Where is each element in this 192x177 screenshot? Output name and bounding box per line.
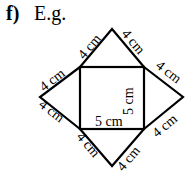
label-left-upper-edge: 4 cm (37, 65, 68, 94)
label-top-left-edge: 4 cm (75, 31, 104, 62)
label-right-lower-edge: 4 cm (149, 111, 180, 140)
label-square-width: 5 cm (95, 114, 123, 129)
pyramid-net-diagram: 4 cm 4 cm 4 cm 4 cm 4 cm 4 cm 4 cm 4 cm … (0, 0, 192, 177)
label-left-lower-edge: 4 cm (36, 97, 67, 126)
label-square-height: 5 cm (121, 87, 136, 115)
label-bottom-left-edge: 4 cm (74, 129, 103, 160)
label-bottom-right-edge: 4 cm (114, 143, 143, 174)
label-right-upper-edge: 4 cm (153, 58, 184, 87)
